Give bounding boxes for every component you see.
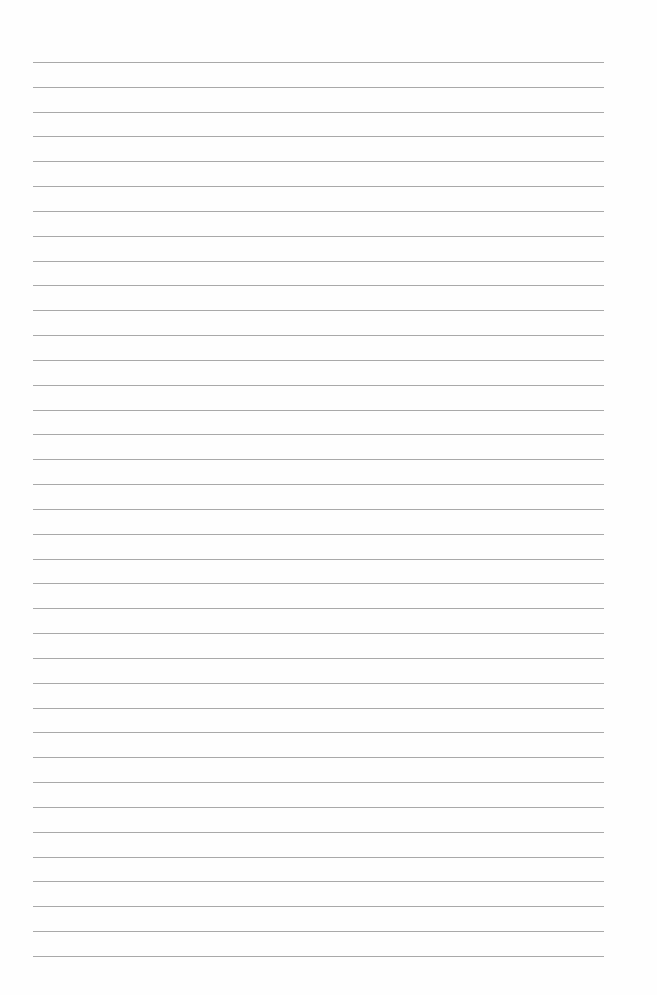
ruled-line (33, 608, 604, 609)
ruled-line (33, 658, 604, 659)
ruled-line (33, 633, 604, 634)
ruled-line (33, 434, 604, 435)
ruled-line (33, 732, 604, 733)
ruled-line (33, 285, 604, 286)
ruled-line (33, 87, 604, 88)
ruled-line (33, 559, 604, 560)
ruled-line (33, 757, 604, 758)
ruled-line (33, 261, 604, 262)
ruled-line (33, 335, 604, 336)
ruled-line (33, 484, 604, 485)
ruled-line (33, 161, 604, 162)
ruled-line (33, 360, 604, 361)
ruled-line (33, 708, 604, 709)
ruled-line (33, 459, 604, 460)
ruled-line (33, 112, 604, 113)
ruled-line (33, 236, 604, 237)
ruled-line (33, 857, 604, 858)
ruled-line (33, 509, 604, 510)
ruled-line (33, 583, 604, 584)
ruled-line (33, 782, 604, 783)
ruled-line (33, 62, 604, 63)
ruled-line (33, 931, 604, 932)
ruled-line (33, 385, 604, 386)
ruled-line (33, 832, 604, 833)
ruled-line (33, 956, 604, 957)
ruled-line (33, 410, 604, 411)
ruled-line (33, 906, 604, 907)
ruled-line (33, 211, 604, 212)
ruled-line (33, 310, 604, 311)
ruled-line (33, 807, 604, 808)
ruled-line (33, 136, 604, 137)
ruled-line (33, 186, 604, 187)
ruled-line (33, 683, 604, 684)
lined-paper-sheet (0, 0, 657, 995)
ruled-line (33, 534, 604, 535)
ruled-line (33, 881, 604, 882)
